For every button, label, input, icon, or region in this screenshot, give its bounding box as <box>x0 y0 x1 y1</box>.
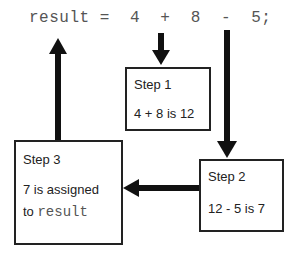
step1-box: Step 1 4 + 8 is 12 <box>125 67 211 131</box>
arrow-down-to-step1-icon <box>152 33 170 65</box>
step3-prefix: to <box>23 204 37 219</box>
arrow-up-to-result-icon <box>49 38 67 142</box>
step3-code: result <box>37 204 87 220</box>
step2-text: 12 - 5 is 7 <box>208 201 265 216</box>
step3-text: 7 is assigned <box>23 182 99 197</box>
arrow-down-to-step2-icon <box>217 30 237 158</box>
step1-text: 4 + 8 is 12 <box>134 106 194 121</box>
arrow-left-to-step3-icon <box>123 179 200 197</box>
step1-title: Step 1 <box>134 77 172 92</box>
step3-text-line2: to result <box>23 204 88 220</box>
step2-title: Step 2 <box>208 169 246 184</box>
step3-box: Step 3 7 is assigned to result <box>14 140 123 245</box>
step2-box: Step 2 12 - 5 is 7 <box>199 159 284 232</box>
step3-title: Step 3 <box>23 152 61 167</box>
